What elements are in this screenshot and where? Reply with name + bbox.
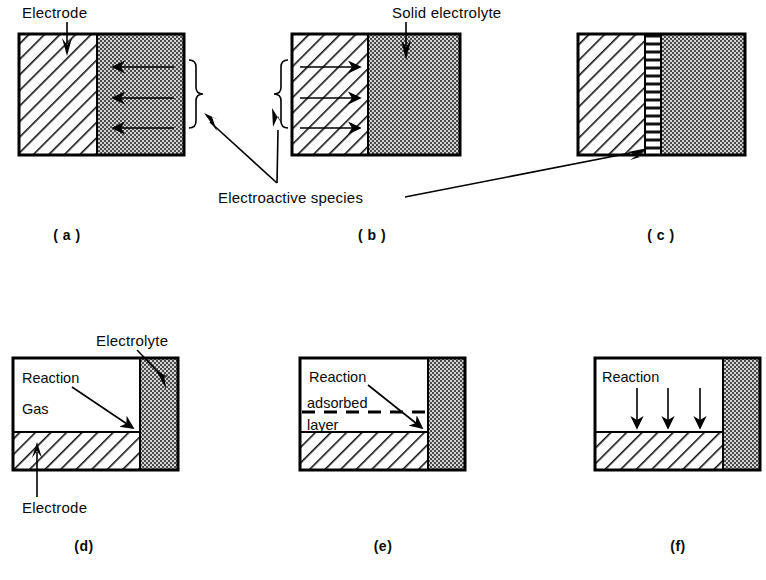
panel-d-reaction-label: Reaction bbox=[22, 370, 79, 386]
panel-c-electrolyte-region bbox=[661, 34, 745, 155]
panel-d-electrolyte-label: Electrolyte bbox=[96, 332, 168, 349]
panel-e-adsorbed-label: adsorbed bbox=[307, 395, 367, 411]
panel-c-electrode-region bbox=[578, 34, 645, 155]
panel-c-interlayer-region bbox=[645, 34, 661, 155]
electroactive-species-label: Electroactive species bbox=[218, 189, 363, 206]
panel-c-caption: ( c ) bbox=[647, 227, 674, 243]
panel-e-electrolyte-region bbox=[428, 358, 465, 470]
figure-root: Electrode ( a ) Solid electrolyte ( b ) … bbox=[0, 0, 766, 580]
solid-electrolyte-label: Solid electrolyte bbox=[392, 4, 501, 21]
panel-f-reaction-label: Reaction bbox=[602, 369, 659, 385]
panel-b-caption: ( b ) bbox=[358, 227, 386, 243]
panel-a-caption: ( a ) bbox=[53, 227, 80, 243]
panel-b-electrode-region bbox=[292, 34, 368, 155]
panel-e-reaction-label: Reaction bbox=[309, 369, 366, 385]
electrode-electrolyte-interface-diagram: Electrode ( a ) Solid electrolyte ( b ) … bbox=[0, 0, 766, 580]
panel-f-electrode-region bbox=[595, 432, 723, 470]
panel-d-electrode-region bbox=[13, 432, 140, 470]
panel-a-electrode-region bbox=[19, 34, 97, 155]
panel-e-electrode-region bbox=[300, 432, 428, 470]
panel-d-electrode-label: Electrode bbox=[22, 499, 87, 516]
panel-a-electrolyte-region bbox=[97, 34, 184, 155]
species-leader-to-b bbox=[277, 130, 278, 183]
panel-e-layer-label: layer bbox=[307, 417, 339, 433]
panel-f-electrolyte-region bbox=[723, 358, 760, 470]
electrode-top-label: Electrode bbox=[22, 4, 87, 21]
panel-d-gas-label: Gas bbox=[22, 401, 49, 417]
panel-b-electrolyte-region bbox=[368, 34, 460, 155]
panel-f-caption: (f) bbox=[670, 538, 686, 554]
panel-e-caption: (e) bbox=[374, 538, 393, 554]
panel-d-caption: (d) bbox=[74, 538, 93, 554]
